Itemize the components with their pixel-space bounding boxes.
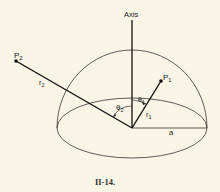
r1-line <box>132 81 161 128</box>
r1-label: r1 <box>146 110 152 120</box>
r2-line <box>16 61 132 128</box>
theta1-label: θ1 <box>138 96 145 105</box>
p1-label: P1 <box>163 73 172 83</box>
theta2-label: θ2 <box>116 103 124 113</box>
hemisphere-diagram: Axis P2 r2 P1 r1 θ2 θ1 a II-14. <box>0 0 220 192</box>
r2-label: r2 <box>39 78 45 88</box>
a-label: a <box>169 128 174 137</box>
axis-label: Axis <box>124 10 138 19</box>
figure-caption: II-14. <box>95 177 115 187</box>
p2-label: P2 <box>14 51 23 61</box>
